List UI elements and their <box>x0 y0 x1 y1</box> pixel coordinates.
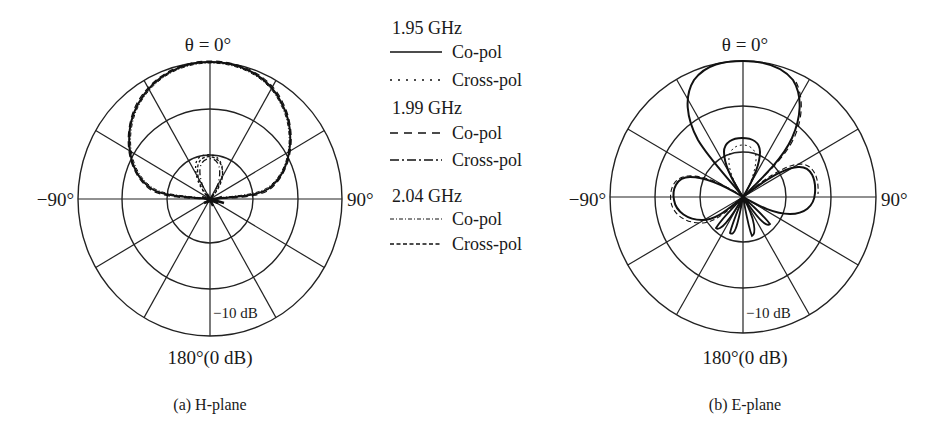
e-right-label: 90° <box>881 189 908 210</box>
h-left-label: −90° <box>37 189 74 210</box>
h-bottom-label: 180°(0 dB) <box>167 347 252 369</box>
legend-freq-1: 1.95 GHz <box>392 18 462 38</box>
e-back-lobe-3 <box>716 197 743 229</box>
e-ring-label: −10 dB <box>746 305 791 321</box>
legend-freq-3: 2.04 GHz <box>392 186 462 206</box>
e-plane-plot: θ = 0° −90° 90° −10 dB 180°(0 dB) (b) E-… <box>569 34 908 414</box>
legend-freq-2: 1.99 GHz <box>392 98 462 118</box>
h-ring-label: −10 dB <box>213 305 258 321</box>
legend-label-1a: Co-pol <box>452 42 502 62</box>
h-caption: (a) H-plane <box>173 396 246 414</box>
legend: 1.95 GHz Co-pol Cross-pol 1.99 GHz Co-po… <box>390 18 522 254</box>
e-caption: (b) E-plane <box>709 396 781 414</box>
legend-label-3b: Cross-pol <box>452 234 522 254</box>
legend-label-3a: Co-pol <box>452 209 502 229</box>
e-plane-curves <box>671 61 819 236</box>
legend-label-2b: Cross-pol <box>452 150 522 170</box>
h-plane-labels: θ = 0° −90° 90° −10 dB 180°(0 dB) (a) H-… <box>37 34 374 414</box>
legend-label-2a: Co-pol <box>452 123 502 143</box>
h-plane-plot: θ = 0° −90° 90° −10 dB 180°(0 dB) (a) H-… <box>37 34 374 414</box>
e-plane-labels: θ = 0° −90° 90° −10 dB 180°(0 dB) (b) E-… <box>569 34 908 414</box>
h-right-label: 90° <box>347 189 374 210</box>
legend-label-1b: Cross-pol <box>452 70 522 90</box>
e-bottom-label: 180°(0 dB) <box>702 347 787 369</box>
h-top-label: θ = 0° <box>185 34 231 55</box>
figure-canvas: θ = 0° −90° 90° −10 dB 180°(0 dB) (a) H-… <box>0 0 928 445</box>
e-left-label: −90° <box>569 189 606 210</box>
e-top-label: θ = 0° <box>722 34 768 55</box>
